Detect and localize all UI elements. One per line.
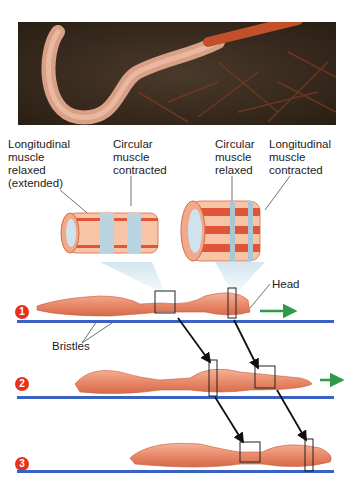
ground-line-1 [17,320,334,323]
locomotion-diagram [0,0,355,484]
muscle-tube-contracted [181,201,260,261]
muscle-tube-extended [61,213,158,253]
zoom-cone-2 [215,262,265,292]
worm-step-2 [75,360,342,396]
ground-line-2 [17,396,334,399]
ground-line-3 [17,470,334,473]
worm-step-3 [130,439,331,471]
zoom-cone-1 [100,262,165,293]
worm-step-1 [37,288,295,318]
